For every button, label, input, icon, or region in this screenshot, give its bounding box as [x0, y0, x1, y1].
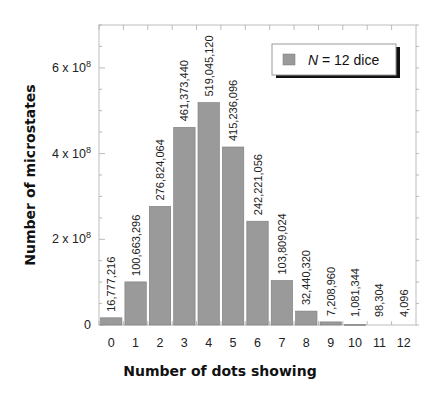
bar-value-label: 32,440,320 — [300, 250, 312, 305]
x-axis-title: Number of dots showing — [123, 363, 316, 379]
x-tick-label: 6 — [254, 336, 261, 350]
bar-10 — [344, 325, 365, 326]
bar-value-label: 98,304 — [373, 283, 385, 317]
bar-3 — [174, 127, 195, 325]
x-tick-label: 8 — [303, 336, 310, 350]
bar-value-label: 276,824,064 — [154, 139, 166, 200]
x-tick-label: 4 — [205, 336, 212, 350]
y-tick-label: 0 — [84, 318, 91, 332]
x-tick-label: 5 — [230, 336, 237, 350]
x-tick-label: 12 — [397, 336, 411, 350]
x-tick-labels: 0123456789101112 — [108, 336, 411, 350]
y-tick-label: 6 x 108 — [52, 59, 91, 75]
bar-1 — [125, 282, 146, 325]
bar-chart: 16,777,216100,663,296276,824,064461,373,… — [0, 0, 443, 399]
bar-9 — [320, 322, 341, 325]
bar-value-label: 461,373,440 — [178, 60, 190, 121]
x-tick-label: 0 — [108, 336, 115, 350]
x-tick-label: 9 — [327, 336, 334, 350]
bar-0 — [101, 318, 122, 325]
x-tick-label: 10 — [348, 336, 362, 350]
bar-value-label: 4,096 — [398, 289, 410, 317]
bar-value-label: 7,208,960 — [325, 267, 337, 316]
legend-swatch-icon — [283, 54, 295, 65]
bar-value-label: 16,777,216 — [105, 257, 117, 312]
x-tick-label: 11 — [373, 336, 386, 350]
bar-value-label: 1,081,344 — [349, 268, 361, 317]
y-axis-title: Number of microstates — [22, 84, 38, 265]
bar-value-label: 415,236,096 — [227, 80, 239, 141]
bar-4 — [198, 103, 219, 325]
x-tick-label: 7 — [278, 336, 285, 350]
bar-value-label: 519,045,120 — [203, 35, 215, 96]
bar-2 — [149, 206, 170, 325]
bar-value-label: 100,663,296 — [130, 215, 142, 276]
y-tick-labels: 02 x 1084 x 1086 x 108 — [52, 59, 91, 332]
bar-5 — [222, 147, 243, 325]
bar-8 — [296, 311, 317, 325]
bar-6 — [247, 221, 268, 325]
x-tick-label: 3 — [181, 336, 188, 350]
x-tick-label: 2 — [157, 336, 164, 350]
y-tick-label: 2 x 108 — [52, 230, 91, 246]
y-tick-label: 4 x 108 — [52, 145, 91, 161]
bar-value-label: 242,221,056 — [252, 154, 264, 215]
bar-7 — [271, 281, 292, 326]
bar-value-label: 103,809,024 — [276, 213, 288, 274]
legend: N = 12 dice — [272, 44, 400, 78]
x-tick-label: 1 — [132, 336, 139, 350]
legend-label: N = 12 dice — [308, 52, 379, 68]
